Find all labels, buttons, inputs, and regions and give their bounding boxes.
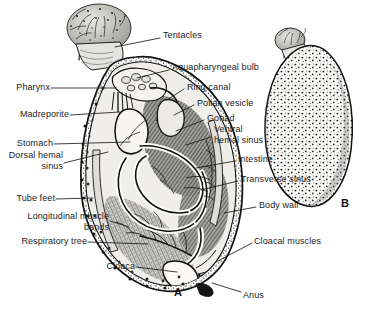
label-cloacal-muscles: Cloacal muscles [254, 236, 321, 247]
label-gonad: Gonad [207, 113, 235, 124]
label-tube-feet: Tube feet [0, 193, 55, 204]
label-tentacles: Tentacles [163, 30, 202, 41]
label-polian-vesicle: Polian vesicle [197, 98, 253, 109]
label-ventral-hemal-sinus: Ventral hemal sinus [214, 124, 263, 145]
label-ring-canal: Ring canal [187, 82, 231, 93]
panel-b-mark: B [341, 197, 349, 209]
panel-a-mark: A [174, 286, 182, 298]
label-body-wall: Body wall [259, 200, 298, 211]
label-intestine: Intestine [238, 154, 273, 165]
label-pharynx: Pharynx [0, 82, 50, 93]
label-transverse-sinus: Transverse sinus [241, 174, 311, 185]
label-longitudinal-muscle-bands: Longitudinal muscle bands [0, 211, 109, 232]
label-dorsal-hemal-sinus: Dorsal hemal sinus [0, 150, 63, 171]
label-aquapharyngeal-bulb: Aquapharyngeal bulb [172, 62, 259, 73]
label-anus: Anus [243, 290, 264, 301]
label-respiratory-tree: Respiratory tree [0, 236, 87, 247]
label-stomach: Stomach [0, 138, 53, 149]
label-cloaca: Cloaca [90, 261, 135, 272]
polian-vesicle-structure [157, 100, 184, 137]
label-madreporite: Madreporite [0, 109, 69, 120]
anatomy-figure: Tentacles Aquapharyngeal bulb Ring canal… [0, 0, 375, 314]
